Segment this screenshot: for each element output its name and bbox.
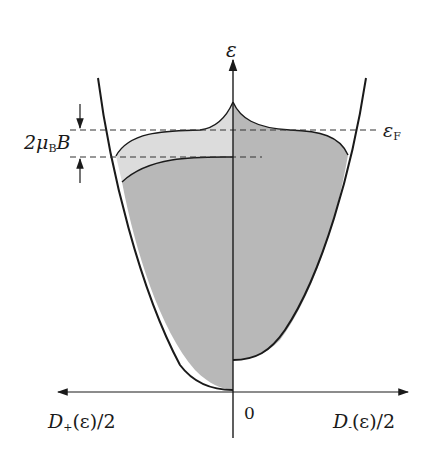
left-axis-label-main: D <box>48 410 63 432</box>
splitting-label: 2μBB <box>24 133 71 154</box>
fermi-level-label: εF <box>383 121 401 142</box>
left-filled-states-dark <box>122 156 233 390</box>
left-axis-label: D+(ε)/2 <box>48 412 116 433</box>
energy-axis-label: ε <box>226 40 237 60</box>
splitting-label-suffix: B <box>57 131 71 153</box>
splitting-label-prefix: 2μ <box>24 131 48 153</box>
origin-label: 0 <box>244 405 255 422</box>
right-axis-label-main: D <box>333 410 348 432</box>
splitting-label-sub: B <box>48 142 56 155</box>
right-axis-label: D-(ε)/2 <box>333 412 395 433</box>
right-axis-label-rest: (ε)/2 <box>352 410 395 432</box>
left-axis-label-rest: (ε)/2 <box>72 410 115 432</box>
fermi-level-label-main: ε <box>383 119 393 141</box>
fermi-level-label-sub: F <box>393 130 401 143</box>
dos-diagram <box>0 0 434 453</box>
